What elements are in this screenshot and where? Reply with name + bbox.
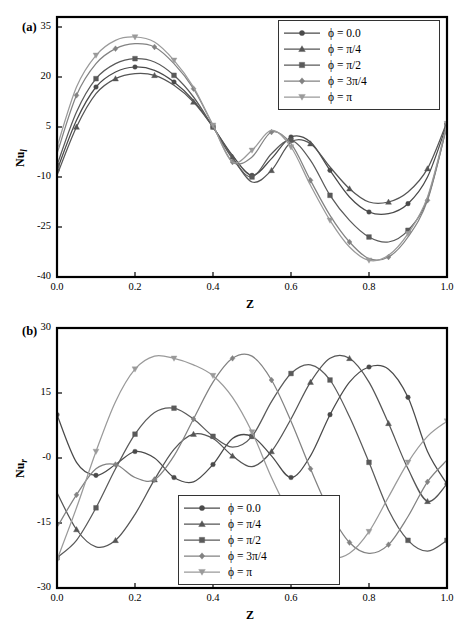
x-tick-label: 0.8	[349, 592, 389, 603]
y-tick-label: -40	[19, 270, 51, 281]
series-marker	[406, 201, 411, 206]
series-marker	[152, 44, 157, 50]
series-marker	[94, 85, 99, 90]
series-marker	[133, 432, 138, 437]
y-tick-label: -25	[19, 220, 51, 231]
legend-marker-icon	[283, 42, 321, 56]
legend-label: ϕ = 3π/4	[221, 550, 267, 562]
series-marker	[328, 193, 333, 198]
panel-a-y-axis-label: Nul	[13, 149, 29, 167]
panel-a-legend: ϕ = 0.0ϕ = π/4ϕ = π/2ϕ = 3π/4ϕ = π	[278, 20, 440, 110]
legend-item: ϕ = 0.0	[183, 500, 331, 516]
y-axis-label-text: Nu	[13, 463, 27, 478]
series-marker	[172, 73, 177, 78]
legend-label: ϕ = 0.0	[221, 502, 261, 514]
legend-marker-icon	[283, 90, 321, 104]
x-tick-label: 1.0	[427, 592, 462, 603]
panel-b-x-axis-label: Z	[246, 608, 254, 623]
legend-marker-icon	[183, 533, 221, 547]
y-tick-label: -0	[19, 451, 51, 462]
series-marker	[367, 210, 372, 215]
panel-b-plot	[0, 318, 462, 637]
legend-label: ϕ = π/2	[321, 59, 361, 71]
legend-item: ϕ = π/2	[283, 57, 431, 73]
chart-panel-a: (a) Nul Z ϕ = 0.0ϕ = π/4ϕ = π/2ϕ = 3π/4ϕ…	[0, 0, 462, 318]
x-tick-label: 0.2	[115, 281, 155, 292]
series-marker	[133, 449, 138, 454]
y-axis-label-subscript: l	[19, 149, 29, 152]
legend-item: ϕ = 3π/4	[183, 548, 331, 564]
series-marker	[386, 420, 392, 425]
series-marker	[94, 473, 99, 478]
x-tick-label: 0.0	[37, 281, 77, 292]
legend-marker-icon	[283, 58, 321, 72]
series-marker	[94, 505, 99, 510]
x-tick-label: 0.4	[193, 281, 233, 292]
y-tick-label: 35	[19, 20, 51, 31]
series-marker	[406, 538, 411, 543]
legend-label: ϕ = π	[221, 566, 252, 578]
legend-item: ϕ = 0.0	[283, 25, 431, 41]
series-marker	[289, 475, 294, 480]
legend-item: ϕ = 3π/4	[283, 73, 431, 89]
series-marker	[367, 235, 372, 240]
x-tick-label: 0.4	[193, 592, 233, 603]
y-axis-label-text: Nu	[13, 152, 27, 167]
legend-label: ϕ = π/4	[321, 43, 361, 55]
legend-item: ϕ = π/4	[183, 516, 331, 532]
x-tick-label: 0.2	[115, 592, 155, 603]
y-tick-label: 5	[19, 120, 51, 131]
series-marker	[113, 46, 118, 52]
series-marker	[211, 434, 216, 439]
series-marker	[172, 406, 177, 411]
legend-label: ϕ = π/4	[221, 518, 261, 530]
x-tick-label: 0.0	[37, 592, 77, 603]
legend-marker-icon	[183, 517, 221, 531]
series-marker	[308, 466, 313, 472]
legend-label: ϕ = 0.0	[321, 27, 361, 39]
series-marker	[133, 56, 138, 61]
series-marker	[328, 412, 333, 417]
series-marker	[94, 76, 99, 81]
legend-label: ϕ = 3π/4	[321, 75, 367, 87]
y-tick-label: -15	[19, 516, 51, 527]
y-tick-label: 20	[19, 70, 51, 81]
x-tick-label: 0.8	[349, 281, 389, 292]
series-marker	[74, 92, 79, 98]
legend-item: ϕ = π	[283, 89, 431, 105]
y-tick-label: -30	[19, 581, 51, 592]
legend-item: ϕ = π/2	[183, 532, 331, 548]
legend-marker-icon	[183, 549, 221, 563]
series-marker	[425, 166, 431, 171]
figure-container: (a) Nul Z ϕ = 0.0ϕ = π/4ϕ = π/2ϕ = 3π/4ϕ…	[0, 0, 462, 637]
legend-marker-icon	[183, 565, 221, 579]
x-tick-label: 0.6	[271, 281, 311, 292]
chart-panel-b: (b) Nur Z ϕ = 0.0ϕ = π/4ϕ = π/2ϕ = 3π/4ϕ…	[0, 318, 462, 637]
series-marker	[250, 175, 255, 180]
series-marker	[172, 475, 177, 480]
series-marker	[211, 462, 216, 467]
series-marker	[328, 378, 333, 383]
legend-marker-icon	[183, 501, 221, 515]
series-marker	[367, 365, 372, 370]
series-marker	[289, 371, 294, 376]
series-marker	[347, 355, 353, 360]
panel-a-x-axis-label: Z	[246, 297, 254, 312]
legend-marker-icon	[283, 74, 321, 88]
x-tick-label: 1.0	[427, 281, 462, 292]
legend-label: ϕ = π	[321, 91, 352, 103]
y-tick-label: 30	[19, 321, 51, 332]
series-marker	[93, 449, 99, 454]
legend-item: ϕ = π/4	[283, 41, 431, 57]
legend-marker-icon	[283, 26, 321, 40]
legend-item: ϕ = π	[183, 564, 331, 580]
panel-b-legend: ϕ = 0.0ϕ = π/4ϕ = π/2ϕ = 3π/4ϕ = π	[178, 495, 340, 585]
series-marker	[406, 395, 411, 400]
legend-label: ϕ = π/2	[221, 534, 261, 546]
x-tick-label: 0.6	[271, 592, 311, 603]
y-tick-label: -10	[19, 170, 51, 181]
series-marker	[133, 65, 138, 70]
y-tick-label: 15	[19, 386, 51, 397]
series-marker	[367, 460, 372, 465]
